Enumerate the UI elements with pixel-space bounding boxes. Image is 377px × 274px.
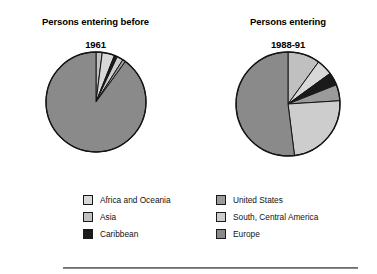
- swatch-caribbean: [83, 229, 93, 239]
- swatch-europe: [216, 229, 226, 239]
- pie-slice: [236, 52, 295, 156]
- pie-wrap-left: [8, 50, 183, 154]
- chart-title-right-line2: 1988-91: [271, 39, 305, 50]
- legend-item: Asia: [83, 210, 171, 224]
- legend-item: United States: [216, 193, 318, 207]
- legend-label: Africa and Oceania: [100, 195, 171, 205]
- legend: Africa and Oceania Asia Caribbean United…: [0, 193, 377, 245]
- pie-wrap-right: [198, 50, 377, 158]
- legend-item: Caribbean: [83, 227, 171, 241]
- bottom-divider: [63, 267, 358, 269]
- chart-title-left: Persons entering before 1961: [8, 4, 183, 50]
- legend-item: Africa and Oceania: [83, 193, 171, 207]
- pie-slice: [288, 101, 340, 156]
- chart-title-right-line1: Persons entering: [250, 16, 326, 27]
- legend-item: South, Central America: [216, 210, 318, 224]
- swatch-south-central-america: [216, 212, 226, 222]
- chart-title-left-line1: Persons entering before: [42, 16, 149, 27]
- chart-title-left-line2: 1961: [85, 39, 106, 50]
- legend-label: Asia: [100, 212, 116, 222]
- swatch-asia: [83, 212, 93, 222]
- pie-chart-right: [234, 50, 342, 158]
- legend-label: United States: [233, 195, 283, 205]
- legend-column-right: United States South, Central America Eur…: [216, 193, 318, 244]
- swatch-africa-oceania: [83, 195, 93, 205]
- swatch-united-states: [216, 195, 226, 205]
- chart-persons-before-1961: Persons entering before 1961: [8, 4, 183, 154]
- legend-label: South, Central America: [233, 212, 318, 222]
- figure-canvas: Persons entering before 1961 Persons ent…: [0, 0, 377, 274]
- pie-chart-left: [44, 50, 148, 154]
- legend-item: Europe: [216, 227, 318, 241]
- chart-persons-1988-91: Persons entering 1988-91: [198, 4, 377, 158]
- legend-label: Caribbean: [100, 229, 138, 239]
- chart-title-right: Persons entering 1988-91: [198, 4, 377, 50]
- legend-label: Europe: [233, 229, 260, 239]
- legend-column-left: Africa and Oceania Asia Caribbean: [83, 193, 171, 244]
